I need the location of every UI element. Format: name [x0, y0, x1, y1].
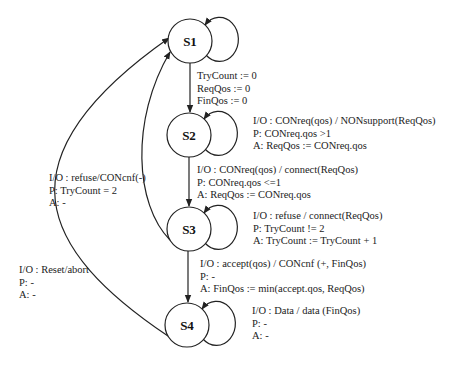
label-a: A: TryCount := TryCount + 1 [253, 235, 382, 248]
label-line: FinQos := 0 [197, 95, 257, 108]
label-io: I/O : refuse / connect(ReqQos) [253, 210, 382, 223]
label-io: I/O : Data / data (FinQos) [252, 305, 360, 318]
label-s4-s1: I/O : Reset/abort P: - A: - [19, 264, 89, 302]
state-s3: S3 [167, 207, 211, 251]
state-s1: S1 [168, 19, 212, 63]
label-s3-s4: I/O : accept(qos) / CONcnf (+, FinQos) P… [200, 258, 366, 296]
label-s4-self: I/O : Data / data (FinQos) P: - A: - [252, 305, 360, 343]
label-p: P: - [200, 271, 366, 284]
label-line: TryCount := 0 [197, 70, 257, 83]
label-io: I/O : Reset/abort [19, 264, 89, 277]
svg-text:S4: S4 [180, 318, 194, 333]
label-p: P: - [19, 277, 89, 290]
label-io: I/O : CONreq(qos) / NONsupport(ReqQos) [253, 115, 436, 128]
label-s2-s3: I/O : CONreq(qos) / connect(ReqQos) P: C… [197, 164, 358, 202]
state-s4: S4 [165, 303, 209, 347]
label-p: P: TryCount = 2 [49, 185, 146, 198]
label-p: P: CONreq.qos >1 [253, 128, 436, 141]
svg-text:S1: S1 [183, 34, 197, 49]
label-a: A: - [49, 197, 146, 210]
state-s2: S2 [167, 113, 211, 157]
label-p: P: TryCount != 2 [253, 223, 382, 236]
label-io: I/O : CONreq(qos) / connect(ReqQos) [197, 164, 358, 177]
label-line: ReqQos := 0 [197, 83, 257, 96]
label-io: I/O : refuse/CONcnf(-) [49, 172, 146, 185]
label-p: P: CONreq.qos <=1 [197, 177, 358, 190]
label-s1-s2: TryCount := 0 ReqQos := 0 FinQos := 0 [197, 70, 257, 108]
arrow-s3-s1 [142, 52, 170, 240]
label-io: I/O : accept(qos) / CONcnf (+, FinQos) [200, 258, 366, 271]
label-p: P: - [252, 318, 360, 331]
label-a: A: - [19, 289, 89, 302]
label-a: A: ReqQos := CONreq.qos [253, 140, 436, 153]
svg-text:S2: S2 [182, 128, 196, 143]
label-a: A: ReqQos := CONreq.qos [197, 189, 358, 202]
label-s3-self: I/O : refuse / connect(ReqQos) P: TryCou… [253, 210, 382, 248]
label-s3-s1: I/O : refuse/CONcnf(-) P: TryCount = 2 A… [49, 172, 146, 210]
label-s2-self: I/O : CONreq(qos) / NONsupport(ReqQos) P… [253, 115, 436, 153]
label-a: A: FinQos := min(accept.qos, ReqQos) [200, 283, 366, 296]
svg-text:S3: S3 [182, 222, 196, 237]
label-a: A: - [252, 330, 360, 343]
